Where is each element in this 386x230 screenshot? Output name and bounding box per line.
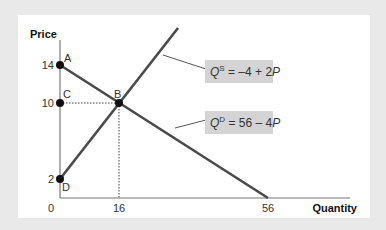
y-tick-2: 2 (48, 173, 54, 185)
y-tick-14: 14 (42, 59, 54, 71)
point-c (56, 99, 64, 107)
supply-leader-line (163, 55, 206, 69)
y-tick-10: 10 (42, 97, 54, 109)
point-a (56, 61, 64, 69)
x-tick-16: 16 (113, 202, 125, 214)
origin-label: 0 (48, 202, 54, 214)
point-a-label: A (64, 52, 72, 64)
point-c-label: C (63, 88, 71, 100)
point-d-label: D (62, 181, 70, 193)
point-b-label: B (114, 88, 121, 100)
supply-demand-chart: QS = –4 + 2P QD = 56 – 4P A C D B 14 10 … (0, 0, 386, 230)
x-tick-56: 56 (262, 202, 274, 214)
demand-leader-line (175, 120, 206, 128)
point-b (115, 99, 123, 107)
y-axis-title: Price (30, 28, 57, 40)
x-axis-title: Quantity (312, 202, 357, 214)
